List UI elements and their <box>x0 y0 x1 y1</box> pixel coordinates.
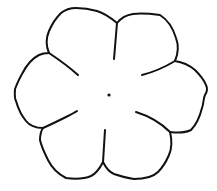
flower-center-dot <box>107 93 110 96</box>
flower-svg <box>0 0 217 191</box>
flower-drawing: Six-petal flower outline <box>0 0 217 191</box>
